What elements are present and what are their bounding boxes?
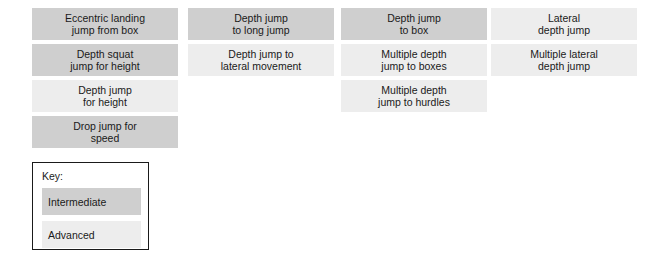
exercise-column-3: Depth jump to box Multiple depth jump to…: [341, 8, 487, 116]
exercise-label: Drop jump for speed: [73, 120, 137, 145]
exercise-label: Eccentric landing jump from box: [65, 12, 145, 37]
exercise-box: Multiple depth jump to hurdles: [341, 80, 487, 112]
exercise-label: Depth jump to box: [387, 12, 441, 37]
exercise-box: Depth jump to lateral movement: [188, 44, 334, 76]
exercise-label: Multiple lateral depth jump: [530, 48, 598, 73]
exercise-box: Depth jump to long jump: [188, 8, 334, 40]
exercise-box: Lateral depth jump: [491, 8, 637, 40]
exercise-label: Depth squat jump for height: [70, 48, 139, 73]
exercise-box: Depth jump for height: [32, 80, 178, 112]
exercise-box: Depth squat jump for height: [32, 44, 178, 76]
exercise-label: Depth jump to lateral movement: [221, 48, 302, 73]
key-entry-intermediate: Intermediate: [42, 188, 141, 215]
key-title: Key:: [42, 170, 63, 182]
key-entry-label: Intermediate: [48, 196, 106, 208]
exercise-label: Depth jump to long jump: [232, 12, 289, 37]
exercise-box: Eccentric landing jump from box: [32, 8, 178, 40]
exercise-label: Lateral depth jump: [538, 12, 590, 37]
exercise-box: Multiple depth jump to boxes: [341, 44, 487, 76]
key-entry-advanced: Advanced: [42, 221, 141, 248]
exercise-label: Depth jump for height: [78, 84, 132, 109]
exercise-box: Drop jump for speed: [32, 116, 178, 148]
key-entry-label: Advanced: [48, 229, 95, 241]
exercise-label: Multiple depth jump to hurdles: [378, 84, 450, 109]
exercise-box: Multiple lateral depth jump: [491, 44, 637, 76]
key-legend: Key: Intermediate Advanced: [32, 162, 149, 250]
exercise-column-1: Eccentric landing jump from box Depth sq…: [32, 8, 178, 152]
exercise-box: Depth jump to box: [341, 8, 487, 40]
plyometric-progression-diagram: Eccentric landing jump from box Depth sq…: [0, 0, 664, 262]
exercise-label: Multiple depth jump to boxes: [381, 48, 446, 73]
exercise-column-2: Depth jump to long jump Depth jump to la…: [188, 8, 334, 80]
exercise-column-4: Lateral depth jump Multiple lateral dept…: [491, 8, 637, 80]
